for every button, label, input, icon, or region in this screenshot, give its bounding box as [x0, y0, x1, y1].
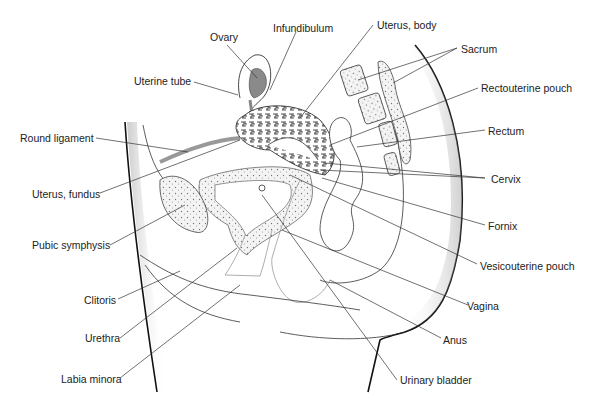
round-ligament-shape: [160, 138, 240, 162]
label-clitoris: Clitoris: [84, 294, 116, 306]
ovary-shape: [249, 68, 266, 98]
label-infundibulum: Infundibulum: [273, 22, 333, 34]
label-sacrum: Sacrum: [461, 43, 497, 55]
label-ovary: Ovary: [210, 31, 238, 43]
label-urinary-bladder: Urinary bladder: [400, 374, 472, 386]
anatomy-diagram: Ovary Infundibulum Uterus, body Sacrum U…: [0, 0, 599, 407]
label-vagina: Vagina: [467, 300, 499, 312]
label-pubic-symphysis: Pubic symphysis: [32, 239, 110, 251]
label-vesicouterine-pouch: Vesicouterine pouch: [480, 260, 575, 272]
label-round-ligament: Round ligament: [20, 132, 94, 144]
label-urethra: Urethra: [85, 332, 120, 344]
pelvis-illustration: [0, 0, 599, 407]
label-uterus-fundus: Uterus, fundus: [32, 188, 100, 200]
label-uterine-tube: Uterine tube: [134, 75, 191, 87]
label-fornix: Fornix: [488, 220, 517, 232]
label-cervix: Cervix: [491, 173, 521, 185]
label-rectum: Rectum: [488, 125, 524, 137]
label-labia-minora: Labia minora: [61, 373, 122, 385]
label-anus: Anus: [443, 334, 467, 346]
label-rectouterine-pouch: Rectouterine pouch: [481, 82, 572, 94]
label-uterus-body: Uterus, body: [377, 19, 437, 31]
